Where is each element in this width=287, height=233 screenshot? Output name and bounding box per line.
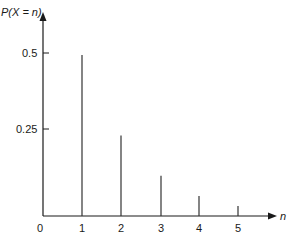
y-axis-label: P(X = n) — [1, 6, 42, 18]
x-tick-label-1: 1 — [79, 222, 85, 233]
x-axis-arrow-icon — [268, 213, 277, 220]
stems — [82, 55, 238, 216]
x-tick-label-0: 0 — [37, 222, 43, 233]
x-tick-label-3: 3 — [158, 222, 164, 233]
y-tick-label-0.5: 0.5 — [22, 47, 37, 59]
y-tick-label-0.25: 0.25 — [16, 123, 37, 135]
x-tick-label-2: 2 — [118, 222, 124, 233]
x-tick-label-5: 5 — [235, 222, 241, 233]
x-axis-label: n — [280, 210, 286, 222]
stem-chart: P(X = n) n 0.5 0.25 0 1 2 3 4 5 — [0, 0, 287, 233]
x-tick-label-4: 4 — [196, 222, 202, 233]
